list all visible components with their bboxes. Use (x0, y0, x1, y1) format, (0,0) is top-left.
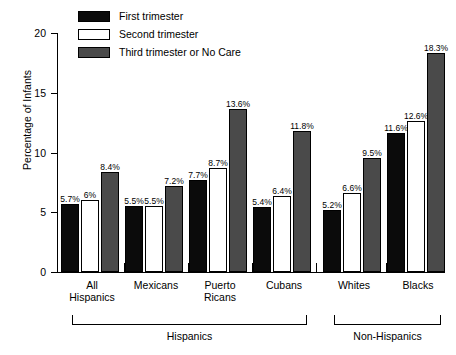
bar-value-label: 6.6% (342, 184, 361, 193)
group-bracket (334, 315, 441, 325)
bar-value-label: 5.2% (322, 201, 341, 210)
y-axis-tick-label: 5 (0, 207, 46, 217)
bar-group: 5.2%6.6%9.5% (323, 33, 385, 272)
bar-chart: First trimester Second trimester Third t… (0, 0, 456, 355)
bar-value-label: 7.2% (164, 177, 183, 186)
y-axis-tick-label: 0 (0, 267, 46, 277)
bar-value-label: 11.6% (384, 124, 407, 133)
bar-value-label: 18.3% (424, 44, 448, 53)
bar-value-label: 6.4% (272, 187, 291, 196)
legend-item-first-trimester: First trimester (78, 8, 278, 24)
bar: 12.6% (407, 121, 425, 272)
bar-group: 5.7%6%8.4% (61, 33, 123, 272)
group-bracket-label: Non-Hispanics (334, 330, 441, 342)
bar-group: 7.7%8.7%13.6% (189, 33, 251, 272)
bar-value-label: 11.8% (290, 122, 313, 131)
bar-value-label: 12.6% (404, 112, 428, 121)
bar: 5.5% (125, 206, 143, 272)
legend-label-first-trimester: First trimester (119, 11, 183, 22)
y-axis-tick-label: 10 (0, 148, 46, 158)
y-axis-tick-label: 15 (0, 88, 46, 98)
bar: 18.3% (427, 53, 445, 272)
bar-value-label: 5.7% (60, 195, 79, 204)
bar: 6.4% (273, 196, 291, 272)
bar-group: 5.5%5.5%7.2% (125, 33, 187, 272)
group-separator-tick (316, 263, 317, 272)
bar-value-label: 5.5% (124, 197, 143, 206)
plot-area: 5.7%6%8.4%5.5%5.5%7.2%7.7%8.7%13.6%5.4%6… (57, 33, 445, 272)
bar-value-label: 5.5% (144, 197, 163, 206)
bar: 8.7% (209, 168, 227, 272)
group-bracket-label: Hispanics (72, 330, 307, 342)
bar: 11.8% (293, 131, 311, 272)
x-axis-line (57, 272, 445, 273)
bar: 5.7% (61, 204, 79, 272)
bar-group: 5.4%6.4%11.8% (253, 33, 315, 272)
bar-value-label: 5.4% (252, 198, 271, 207)
bar: 6.6% (343, 193, 361, 272)
x-axis-category-label-line: Blacks (373, 279, 456, 291)
bar: 7.2% (165, 186, 183, 272)
bar-group: 11.6%12.6%18.3% (387, 33, 449, 272)
bar: 6% (81, 200, 99, 272)
x-axis-category-label: Blacks (373, 279, 456, 291)
bar-value-label: 8.4% (100, 163, 119, 172)
y-axis-tick-label: 20 (0, 28, 46, 38)
bar: 7.7% (189, 180, 207, 272)
bar-value-label: 13.6% (226, 100, 250, 109)
group-bracket (72, 315, 307, 325)
bar: 5.4% (253, 207, 271, 272)
bar-value-label: 6% (84, 191, 96, 200)
bar: 5.2% (323, 210, 341, 272)
legend-swatch-first-trimester (78, 11, 110, 22)
bar: 11.6% (387, 133, 405, 272)
x-axis-category-label-line: Ricans (175, 291, 265, 303)
y-axis-title: Percentage of Infants (17, 40, 31, 200)
bar: 8.4% (101, 172, 119, 272)
bar-value-label: 7.7% (188, 171, 207, 180)
bar-value-label: 8.7% (208, 159, 227, 168)
bar: 13.6% (229, 109, 247, 272)
x-axis-category-label-line: Hispanics (47, 291, 137, 303)
bar: 9.5% (363, 158, 381, 272)
bar: 5.5% (145, 206, 163, 272)
bar-value-label: 9.5% (362, 149, 381, 158)
